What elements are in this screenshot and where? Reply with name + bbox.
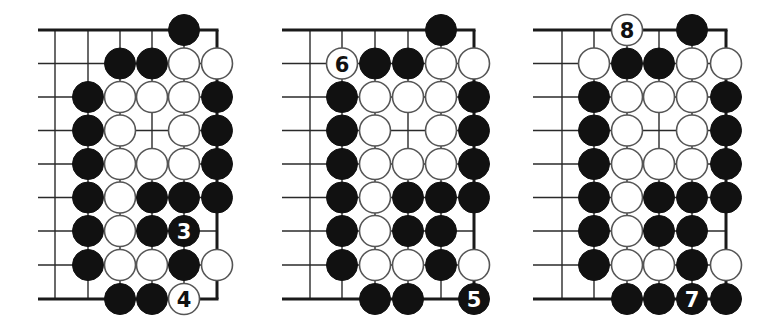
black-stone-icon bbox=[459, 82, 490, 113]
black-stone bbox=[711, 82, 742, 113]
black-stone-icon bbox=[677, 250, 708, 281]
white-stone-icon bbox=[677, 115, 708, 146]
white-stone bbox=[426, 82, 457, 113]
white-stone-icon bbox=[105, 115, 136, 146]
white-stone bbox=[360, 115, 391, 146]
black-stone bbox=[677, 250, 708, 281]
white-stone bbox=[677, 149, 708, 180]
white-stone bbox=[360, 149, 391, 180]
black-stone-icon bbox=[73, 182, 104, 213]
black-stone-icon bbox=[73, 115, 104, 146]
black-stone bbox=[137, 284, 168, 315]
black-stone-icon bbox=[459, 182, 490, 213]
black-stone-icon bbox=[202, 149, 233, 180]
black-stone-icon bbox=[327, 250, 358, 281]
black-stone bbox=[360, 284, 391, 315]
black-stone bbox=[105, 284, 136, 315]
white-stone-icon bbox=[459, 48, 490, 79]
white-stone-icon bbox=[393, 149, 424, 180]
stones: 65 bbox=[327, 15, 490, 315]
black-stone bbox=[459, 149, 490, 180]
black-stone-icon bbox=[677, 15, 708, 46]
move-number: 5 bbox=[467, 288, 482, 312]
black-stone-icon bbox=[579, 115, 610, 146]
white-stone-icon bbox=[426, 149, 457, 180]
black-stone bbox=[73, 250, 104, 281]
white-stone bbox=[169, 115, 200, 146]
white-stone bbox=[579, 48, 610, 79]
black-stone bbox=[579, 149, 610, 180]
white-stone-icon bbox=[612, 82, 643, 113]
white-stone bbox=[169, 82, 200, 113]
white-stone bbox=[393, 149, 424, 180]
white-stone bbox=[169, 149, 200, 180]
black-stone bbox=[426, 216, 457, 247]
white-stone bbox=[105, 216, 136, 247]
black-stone-icon bbox=[202, 115, 233, 146]
black-stone-icon bbox=[579, 182, 610, 213]
white-stone-icon bbox=[105, 182, 136, 213]
white-stone: 4 bbox=[169, 284, 200, 315]
white-stone bbox=[711, 48, 742, 79]
go-board: 34 bbox=[38, 15, 233, 315]
white-stone bbox=[644, 250, 675, 281]
white-stone-icon bbox=[105, 250, 136, 281]
white-stone-icon bbox=[711, 48, 742, 79]
move-number: 3 bbox=[177, 220, 192, 244]
black-stone bbox=[393, 48, 424, 79]
white-stone-icon bbox=[612, 250, 643, 281]
white-stone-icon bbox=[137, 82, 168, 113]
black-stone-icon bbox=[711, 82, 742, 113]
white-stone-icon bbox=[360, 115, 391, 146]
white-stone bbox=[426, 115, 457, 146]
white-stone-icon bbox=[360, 250, 391, 281]
white-stone-icon bbox=[360, 149, 391, 180]
black-stone-icon bbox=[202, 182, 233, 213]
black-stone bbox=[459, 182, 490, 213]
black-stone bbox=[579, 216, 610, 247]
black-stone-icon bbox=[327, 149, 358, 180]
black-stone-icon bbox=[393, 216, 424, 247]
black-stone-icon bbox=[73, 149, 104, 180]
black-stone bbox=[360, 48, 391, 79]
black-stone-icon bbox=[459, 149, 490, 180]
black-stone bbox=[579, 182, 610, 213]
go-board: 65 bbox=[282, 15, 490, 315]
black-stone-icon bbox=[644, 182, 675, 213]
black-stone-icon bbox=[73, 216, 104, 247]
black-stone-icon bbox=[579, 216, 610, 247]
white-stone-icon bbox=[137, 250, 168, 281]
white-stone-icon bbox=[677, 82, 708, 113]
black-stone-icon bbox=[169, 182, 200, 213]
white-stone bbox=[360, 182, 391, 213]
black-stone bbox=[73, 182, 104, 213]
black-stone bbox=[612, 48, 643, 79]
black-stone bbox=[677, 15, 708, 46]
white-stone-icon bbox=[711, 250, 742, 281]
black-stone bbox=[169, 182, 200, 213]
black-stone-icon bbox=[644, 48, 675, 79]
black-stone-icon bbox=[327, 182, 358, 213]
move-number: 6 bbox=[335, 53, 350, 77]
white-stone-icon bbox=[360, 82, 391, 113]
black-stone-icon bbox=[711, 115, 742, 146]
white-stone bbox=[137, 82, 168, 113]
black-stone bbox=[393, 216, 424, 247]
white-stone bbox=[677, 48, 708, 79]
black-stone bbox=[169, 250, 200, 281]
black-stone bbox=[579, 115, 610, 146]
white-stone-icon bbox=[426, 82, 457, 113]
black-stone: 3 bbox=[169, 216, 200, 247]
black-stone bbox=[105, 48, 136, 79]
black-stone bbox=[677, 216, 708, 247]
black-stone-icon bbox=[393, 284, 424, 315]
white-stone bbox=[105, 149, 136, 180]
white-stone bbox=[426, 149, 457, 180]
white-stone-icon bbox=[644, 82, 675, 113]
black-stone bbox=[327, 149, 358, 180]
black-stone bbox=[73, 82, 104, 113]
black-stone-icon bbox=[73, 82, 104, 113]
black-stone bbox=[711, 115, 742, 146]
white-stone bbox=[711, 250, 742, 281]
white-stone-icon bbox=[644, 149, 675, 180]
